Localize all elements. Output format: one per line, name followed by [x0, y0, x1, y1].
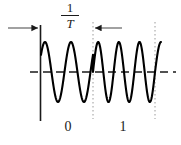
period-fraction-label: 1 T	[57, 1, 83, 31]
fsk-waveform-figure: 1 T 0 1	[0, 0, 181, 145]
fraction-denominator: T	[57, 16, 83, 31]
fraction-numerator: 1	[57, 1, 83, 15]
bit-label-zero: 0	[58, 120, 78, 134]
bit-label-one: 1	[113, 120, 133, 134]
figure-canvas	[0, 0, 181, 145]
